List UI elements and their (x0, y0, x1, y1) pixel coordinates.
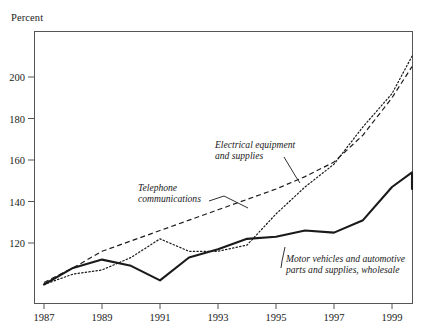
x-axis-ticks (44, 304, 392, 310)
annotation-electrical-line1: Electrical equipment (214, 139, 296, 150)
x-tick-label-1995: 1995 (266, 312, 287, 323)
x-tick-label-1999: 1999 (382, 312, 403, 323)
x-tick-label-1991: 1991 (150, 312, 171, 323)
annotation-motor-line2: parts and supplies, wholesale (285, 264, 400, 275)
y-axis-label: Percent (11, 12, 43, 23)
annotation-motor-line1: Motor vehicles and automotive (285, 253, 406, 264)
x-tick-label-1997: 1997 (324, 312, 345, 323)
x-tick-label-1989: 1989 (92, 312, 113, 323)
y-tick-label-120: 120 (9, 238, 25, 249)
y-tick-label-160: 160 (9, 155, 25, 166)
x-tick-label-1987: 1987 (34, 312, 55, 323)
annotation-telephone-line2: communications (138, 193, 201, 204)
y-tick-label-140: 140 (9, 197, 25, 208)
annotation-electrical-line2: and supplies (215, 150, 264, 161)
y-tick-label-200: 200 (9, 72, 25, 83)
y-tick-label-180: 180 (9, 114, 25, 125)
y-axis-ticks (28, 77, 35, 243)
annotation-telephone-line1: Telephone (138, 182, 178, 193)
x-tick-label-1993: 1993 (208, 312, 229, 323)
chart-figure: Percent 200 180 160 140 120 1987 1989 (0, 0, 434, 333)
chart-svg: 200 180 160 140 120 1987 1989 1991 1993 … (0, 0, 434, 333)
